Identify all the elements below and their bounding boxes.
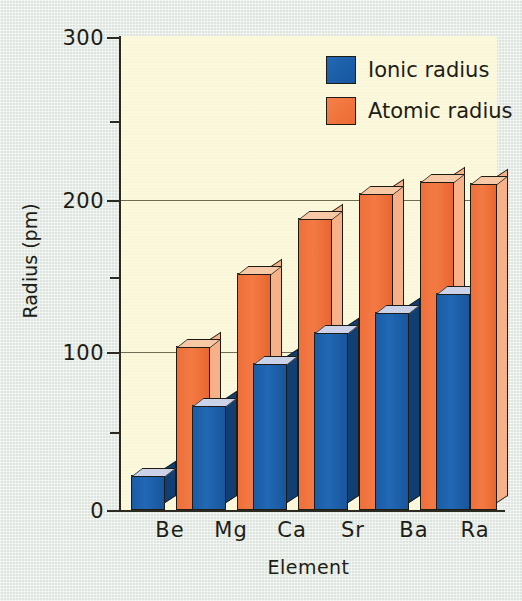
y-tick-label-group: 300 200 100 0 <box>0 0 104 601</box>
legend-label-ionic: Ionic radius <box>368 58 489 82</box>
chart-legend: Ionic radius Atomic radius <box>326 56 513 138</box>
legend-item-ionic: Ionic radius <box>326 56 513 84</box>
x-tick-label-Ba: Ba <box>379 518 449 542</box>
bar-ionic-Be <box>131 475 165 510</box>
bar-face <box>192 405 226 510</box>
x-tick-label-Be: Be <box>135 518 205 542</box>
y-tick-300 <box>107 37 121 39</box>
chart-figure: 300 200 100 0 Radius (pm) <box>0 0 522 601</box>
bar-ionic-Ba <box>375 312 409 510</box>
y-tick-0 <box>107 510 121 512</box>
legend-swatch-icon-atomic <box>326 97 356 125</box>
bar-side <box>287 349 298 503</box>
y-tick-50 <box>110 432 121 434</box>
y-tick-label-300: 300 <box>4 26 104 50</box>
bar-ionic-Ca <box>253 363 287 510</box>
bar-face <box>375 312 409 510</box>
y-tick-150 <box>110 277 121 279</box>
x-axis-line <box>119 510 498 512</box>
bar-ionic-Mg <box>192 405 226 510</box>
bar-side <box>226 391 237 503</box>
bar-ionic-Sr <box>314 332 348 510</box>
bar-atomic-Ra <box>470 183 497 510</box>
legend-label-atomic: Atomic radius <box>368 99 513 123</box>
bar-face <box>131 475 165 510</box>
legend-swatch-icon-ionic <box>326 56 356 84</box>
y-tick-label-100: 100 <box>4 341 104 365</box>
y-tick-250 <box>110 121 121 123</box>
bar-face <box>314 332 348 510</box>
bar-face <box>436 293 470 510</box>
bar-face <box>253 363 287 510</box>
y-tick-right-0 <box>491 510 505 512</box>
bar-ionic-Ra <box>436 293 470 510</box>
y-axis-line <box>119 36 121 512</box>
bar-side <box>409 298 420 503</box>
x-tick-label-Ca: Ca <box>257 518 327 542</box>
legend-item-atomic: Atomic radius <box>326 97 513 125</box>
x-tick-label-Sr: Sr <box>318 518 388 542</box>
x-tick-label-Ra: Ra <box>440 518 510 542</box>
y-tick-200 <box>107 200 121 202</box>
y-axis-title: Radius (pm) <box>19 181 41 341</box>
bar-side <box>348 318 359 503</box>
bar-face <box>470 183 497 510</box>
bar-side <box>497 169 508 503</box>
y-tick-100 <box>107 352 121 354</box>
y-tick-label-0: 0 <box>4 499 104 523</box>
x-tick-label-Mg: Mg <box>196 518 266 542</box>
x-axis-title: Element <box>120 556 497 578</box>
